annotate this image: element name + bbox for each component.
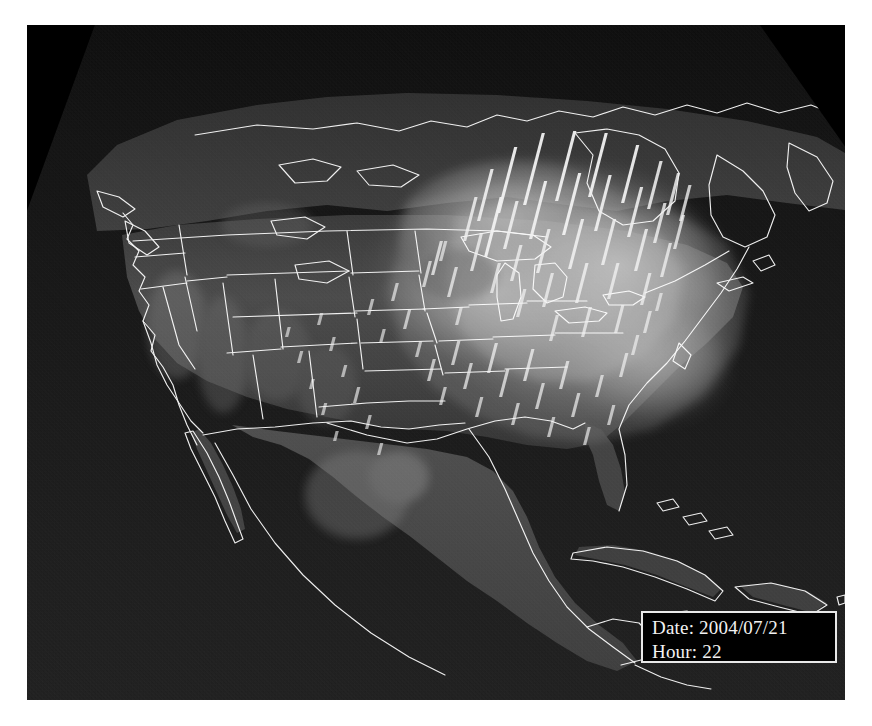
perspective-ground-plane — [27, 25, 845, 700]
image-grain-overlay — [27, 25, 845, 700]
date-line: Date: 2004/07/21 — [652, 616, 835, 640]
hour-line: Hour: 22 — [652, 640, 835, 664]
3d-scene: Date: 2004/07/21 Hour: 22 — [27, 25, 845, 700]
visualization-canvas: Date: 2004/07/21 Hour: 22 — [0, 0, 872, 726]
date-time-readout: Date: 2004/07/21 Hour: 22 — [641, 611, 837, 663]
